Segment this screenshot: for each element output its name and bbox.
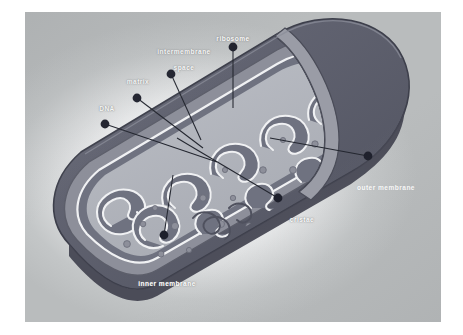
label-ribosome: ribosome [216,35,249,44]
leader-dna [105,124,217,162]
label-dna: DNA [99,105,115,114]
callout-overlay [25,12,441,322]
figure-stage: ribosome intermembrane space matrix DNA … [0,0,463,335]
leader-inner-membrane [164,175,173,235]
label-matrix: matrix [127,78,150,87]
label-outer-membrane: outer membrane [357,184,415,193]
label-cristae: cristae [290,216,314,225]
illustration-canvas: ribosome intermembrane space matrix DNA … [25,12,441,322]
dot-ribosome [229,43,238,52]
dot-outer-membrane [364,152,373,161]
label-intermembrane-space: space [174,64,195,73]
dot-dna [101,120,110,129]
leader-cristae [177,138,278,198]
leader-outer-membrane [270,138,368,156]
leader-lines [105,47,368,235]
dot-inner-membrane [160,231,169,240]
leader-intermembrane-space [171,74,201,140]
label-inner-membrane: inner membrane [138,280,196,289]
label-intermembrane: intermembrane [157,48,211,57]
dot-matrix [133,94,142,103]
dot-cristae [274,194,283,203]
leader-dots [101,43,373,240]
